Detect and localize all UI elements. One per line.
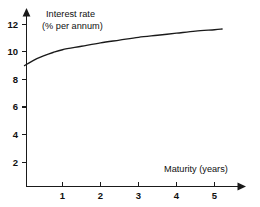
y-axis-title-line2: (% per annum) <box>42 21 103 31</box>
x-axis-title: Maturity (years) <box>164 164 228 174</box>
y-tick-label-2: 2 <box>13 157 18 168</box>
chart-canvas: 2 4 6 8 10 12 1 2 3 4 5 Interest rate (%… <box>0 0 260 207</box>
y-axis-ticks <box>22 24 27 162</box>
x-axis-ticks <box>63 182 215 187</box>
x-tick-label-3: 3 <box>136 190 141 201</box>
y-tick-label-12: 12 <box>7 19 18 30</box>
y-axis-arrow-icon <box>23 8 31 17</box>
x-tick-label-2: 2 <box>98 190 103 201</box>
x-tick-label-4: 4 <box>174 190 180 201</box>
yield-curve-chart: 2 4 6 8 10 12 1 2 3 4 5 Interest rate (%… <box>0 0 260 207</box>
x-tick-label-5: 5 <box>212 190 218 201</box>
y-tick-label-10: 10 <box>7 46 18 57</box>
y-tick-label-4: 4 <box>13 129 19 140</box>
y-axis-title-line1: Interest rate <box>46 9 95 19</box>
y-tick-label-6: 6 <box>13 101 18 112</box>
x-axis-arrow-icon <box>238 183 247 191</box>
yield-curve-series-line <box>25 29 223 66</box>
y-tick-label-8: 8 <box>13 74 18 85</box>
x-tick-label-1: 1 <box>60 190 66 201</box>
